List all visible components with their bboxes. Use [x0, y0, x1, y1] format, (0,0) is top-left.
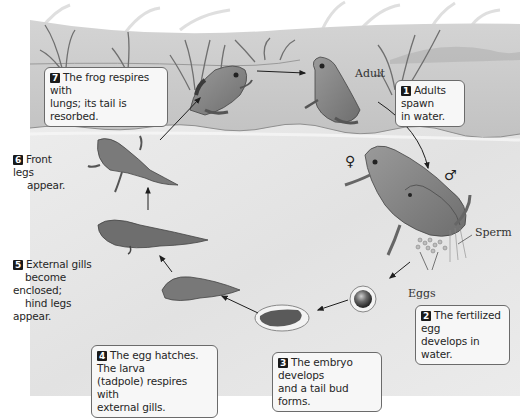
- fertilized-egg-icon: [350, 286, 376, 312]
- step-number: 4: [97, 351, 107, 361]
- step-7-callout: 7The frog respires with lungs; its tail …: [44, 67, 168, 127]
- step-number: 7: [50, 73, 60, 83]
- step-5-callout: 5External gills become enclosed; hind le…: [8, 255, 102, 326]
- step-4-callout: 4The egg hatches. The larva (tadpole) re…: [91, 345, 218, 418]
- step-6-callout: 6Front legs appear.: [8, 150, 74, 195]
- eggs-label: Eggs: [408, 287, 436, 300]
- sperm-label: Sperm: [475, 226, 512, 239]
- step-2-callout: 2The fertilized egg develops in water.: [415, 305, 510, 365]
- step-3-callout: 3The embryo develops and a tail bud form…: [272, 352, 382, 412]
- step-number: 5: [13, 260, 23, 270]
- embryo-icon: [255, 305, 309, 331]
- adult-label: Adult: [355, 67, 385, 80]
- step-number: 3: [278, 358, 288, 368]
- step-number: 2: [421, 311, 431, 321]
- step-number: 1: [401, 86, 411, 96]
- female-symbol: ♀: [345, 153, 355, 169]
- male-symbol: ♂: [444, 167, 457, 183]
- step-number: 6: [13, 155, 23, 165]
- step-1-callout: 1Adults spawn in water.: [395, 80, 465, 127]
